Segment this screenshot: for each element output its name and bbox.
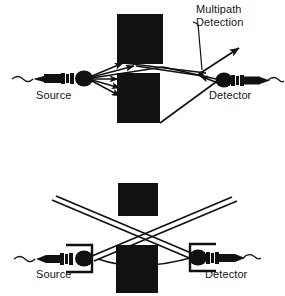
cable-icon-detector-bottom [243, 255, 261, 259]
diagram-canvas [0, 0, 284, 296]
cable-icon-source-bottom [14, 257, 35, 262]
transducer-icon-source-top [12, 71, 93, 87]
barrier-block-icon-bottom-upper [118, 183, 158, 216]
transducer-icon-detector-top [216, 73, 285, 88]
multipath-node [198, 71, 203, 76]
source-label-bottom: Source [36, 268, 71, 280]
cable-icon-source-top [12, 77, 33, 82]
source-label-top: Source [36, 89, 71, 101]
top-panel [12, 14, 284, 123]
multipath-escape-ray [199, 48, 239, 74]
leader-line-icon-multipath [193, 22, 202, 70]
transducer-icon-detector-bottom [189, 244, 261, 271]
callout-line-2: Detection [196, 16, 243, 28]
barrier-block-icon-top-lower [117, 73, 160, 123]
barrier-block-icon-top-upper [117, 14, 163, 64]
callout-line-1: Multipath [196, 3, 242, 15]
figure-root: Multipath Detection Source Detector Sour… [0, 0, 284, 296]
multipath-detection-callout: Multipath Detection [196, 3, 282, 28]
detector-label-top: Detector [209, 89, 251, 101]
cable-icon-detector-top [268, 78, 284, 82]
detector-label-bottom: Detector [205, 268, 247, 280]
barrier-block-icon-bottom-lower [116, 245, 158, 293]
